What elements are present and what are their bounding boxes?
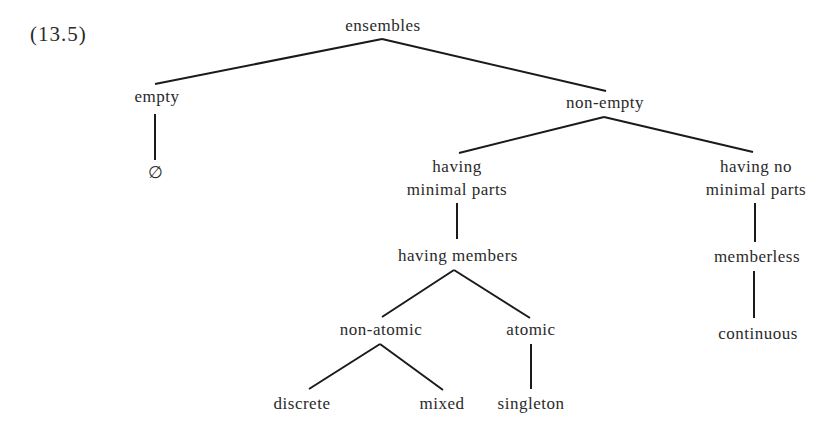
- node-non-empty: non-empty: [566, 93, 644, 112]
- node-ensembles: ensembles: [345, 16, 420, 35]
- edge-non-empty-having-minimal-parts: [459, 117, 604, 153]
- node-memberless: memberless: [714, 247, 800, 266]
- example-number: (13.5): [30, 22, 87, 46]
- empty-set-symbol: ∅: [148, 163, 164, 182]
- edge-non-empty-having-no-minimal-parts: [604, 117, 753, 152]
- node-continuous: continuous: [718, 324, 798, 343]
- tree-edges: [155, 39, 755, 390]
- edge-having-members-atomic: [454, 270, 530, 318]
- edge-root-non-empty: [382, 39, 606, 91]
- node-singleton: singleton: [498, 394, 565, 413]
- node-having-no-minimal-parts-line1: having no: [720, 157, 792, 176]
- edge-non-atomic-discrete: [309, 344, 380, 389]
- node-having-no-minimal-parts-line2: minimal parts: [706, 180, 806, 199]
- edge-root-empty: [155, 39, 382, 84]
- node-discrete: discrete: [274, 394, 331, 413]
- node-having-minimal-parts-line2: minimal parts: [407, 180, 507, 199]
- taxonomy-tree-diagram: (13.5) ensembles empty ∅ non-empty havin…: [0, 0, 829, 432]
- edge-non-atomic-mixed: [380, 344, 443, 390]
- edge-having-members-non-atomic: [382, 270, 454, 317]
- node-mixed: mixed: [420, 394, 465, 413]
- node-atomic: atomic: [506, 320, 555, 339]
- node-empty: empty: [135, 87, 180, 106]
- node-having-members: having members: [398, 246, 518, 265]
- node-having-minimal-parts-line1: having: [432, 157, 481, 176]
- node-non-atomic: non-atomic: [340, 320, 422, 339]
